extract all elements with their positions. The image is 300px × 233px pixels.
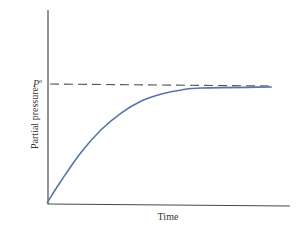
chart: Po Partial pressure Time: [0, 0, 300, 233]
y-axis-label: Partial pressure: [29, 86, 40, 148]
pressure-curve: [47, 87, 272, 203]
p-zero-sup: o: [39, 78, 42, 84]
saturation-pressure-line: [50, 84, 270, 86]
x-axis-label: Time: [158, 211, 179, 222]
x-axis: [48, 204, 291, 206]
